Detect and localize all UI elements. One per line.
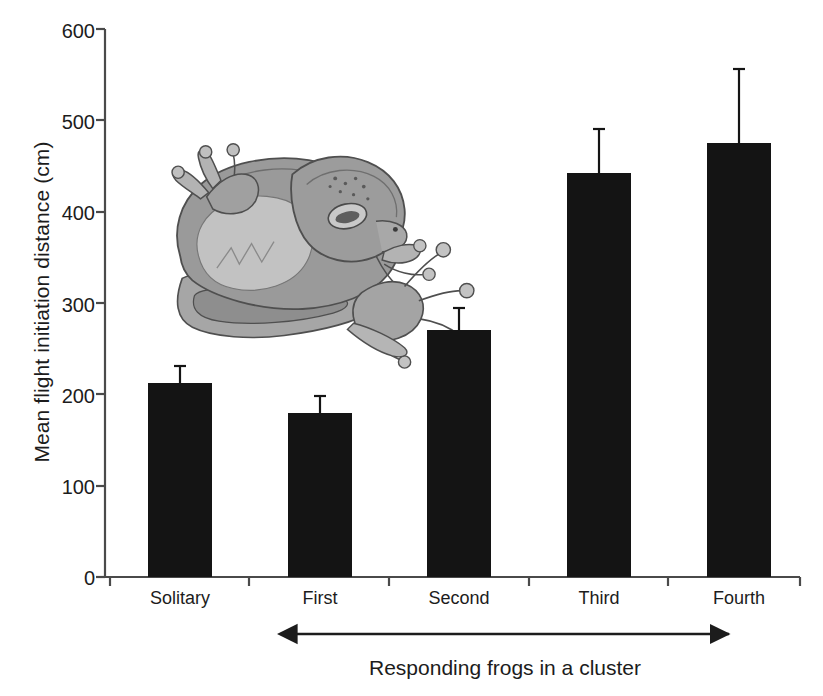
cluster-range-annotation	[0, 0, 823, 696]
bar-chart-figure: Mean flight initiation distance (cm) 600…	[0, 0, 823, 696]
x-axis-annotation-label: Responding frogs in a cluster	[225, 657, 785, 678]
